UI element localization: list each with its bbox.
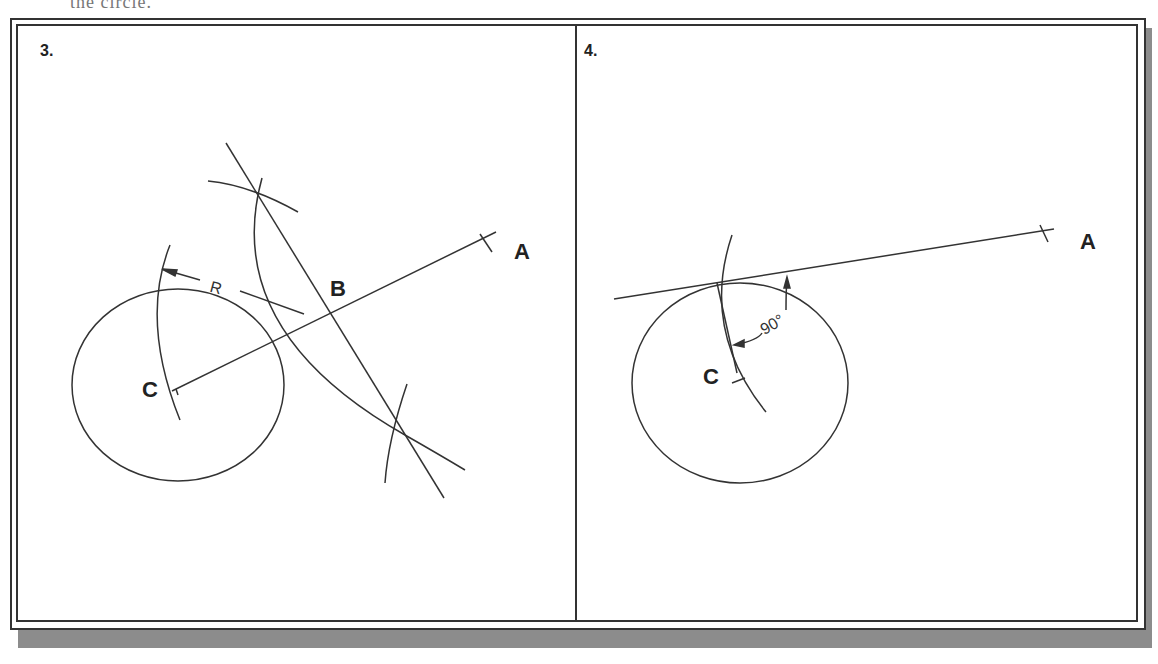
arc-b-large — [254, 178, 465, 470]
angle-arrow-icon — [784, 277, 790, 288]
tick-a2 — [1040, 225, 1048, 242]
panel-4-geometry — [614, 225, 1054, 483]
panel-3-geometry — [72, 143, 496, 498]
point-b-label: B — [330, 276, 346, 301]
angle-arrow-left-icon — [734, 340, 744, 347]
line-ca — [172, 232, 496, 391]
point-a2-label: A — [1080, 229, 1096, 254]
radius-line — [717, 283, 737, 373]
point-a-label: A — [514, 239, 530, 264]
circle-c — [72, 289, 284, 481]
tick-c2 — [732, 378, 745, 383]
dimension-arrow-icon — [162, 269, 177, 276]
point-c2-label: C — [703, 364, 719, 389]
circle-c2 — [632, 283, 848, 483]
dimension-r-label: R — [208, 278, 224, 297]
bisector-line — [226, 143, 444, 498]
tangent-line — [614, 229, 1054, 299]
point-c-label: C — [142, 377, 158, 402]
construction-drawing: A B C R A C 90° — [0, 0, 1158, 664]
